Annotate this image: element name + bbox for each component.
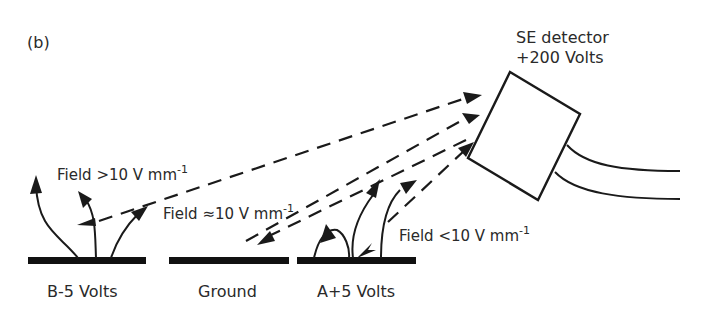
field-annotation-equal: Field ≈10 V mm-1 — [163, 202, 294, 223]
field-annotation-high: Field >10 V mm-1 — [57, 163, 188, 184]
electrode-b-label: B-5 Volts — [47, 282, 118, 301]
detector-cable-upper — [567, 145, 680, 171]
electrode-ground-plate — [169, 257, 289, 264]
se-detector — [468, 72, 680, 200]
arrowhead-icon — [257, 231, 275, 245]
electrode-b-trajectories — [30, 175, 148, 258]
detector-name-label: SE detector — [516, 28, 609, 47]
arrowhead-icon — [357, 243, 376, 258]
electrode-b-plate — [28, 257, 146, 264]
arrowhead-icon — [462, 113, 480, 124]
arrowhead-icon — [320, 224, 336, 243]
arrowhead-icon — [30, 175, 42, 194]
electrode-a-trajectories — [314, 179, 417, 258]
arrowhead-icon — [366, 179, 380, 198]
panel-label: (b) — [27, 33, 50, 52]
arrowhead-icon — [400, 180, 417, 194]
field-annotation-low: Field <10 V mm-1 — [399, 224, 530, 245]
electrode-ground-label: Ground — [198, 282, 257, 301]
electrode-a-label: A+5 Volts — [317, 282, 395, 301]
detector-cable-lower — [555, 172, 680, 199]
se-detector-diagram: (b) SE detector +200 Volts B-5 Volts Gro… — [0, 0, 723, 326]
arrowhead-icon — [463, 92, 482, 104]
arrowhead-icon — [77, 218, 96, 226]
detector-voltage-label: +200 Volts — [516, 48, 604, 67]
